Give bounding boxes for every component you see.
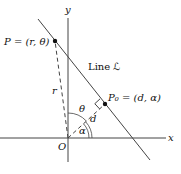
line-l-label: Line ℒ [88,62,120,72]
origin-label: O [58,142,66,152]
point-p-label: P = (r, θ) [4,37,49,47]
segment-r-label: r [52,86,57,96]
segment-d-label: d [90,114,96,124]
point-p-dot [53,39,57,43]
x-axis-label: x [168,133,174,143]
point-p0-dot [103,102,107,106]
y-axis-label: y [65,5,71,15]
angle-alpha-label: α [79,126,86,136]
angle-theta-label: θ [79,104,85,114]
angle-theta-arc [68,113,86,121]
right-angle-marker [95,99,100,109]
polar-line-diagram [0,0,181,174]
point-p0-label: P₀ = (d, α) [108,93,161,103]
